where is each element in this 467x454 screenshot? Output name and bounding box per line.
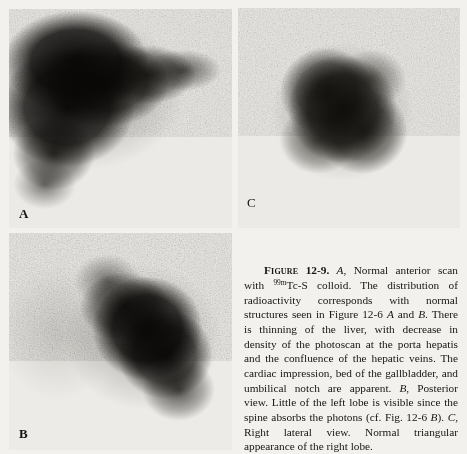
panel-letter-b: B <box>19 427 28 440</box>
caption-figure-label: Figure <box>264 264 298 276</box>
caption-crossref-a: A <box>387 308 394 320</box>
caption-text-3: and <box>394 308 418 320</box>
scintigraph-image-c <box>238 8 460 228</box>
caption-crossref-b: B <box>418 308 425 320</box>
caption-isotope-name: Tc-S <box>287 279 308 291</box>
scan-panel-a: A <box>9 9 232 228</box>
panel-letter-a: A <box>19 207 28 220</box>
scintigraph-image-b <box>9 233 232 450</box>
scintigraph-image-a <box>9 9 232 228</box>
caption-text-6: ). <box>438 411 448 423</box>
caption-isotope-superscript: 99m <box>273 278 286 287</box>
caption-crossref-b2: B <box>431 411 438 423</box>
scan-panel-c: C <box>238 8 460 228</box>
caption-figure-number: 12-9. <box>306 264 330 276</box>
scan-panel-b: B <box>9 233 232 450</box>
panel-letter-c: C <box>247 196 256 209</box>
figure-page: A B C Figure 12-9. A, Normal anterior sc… <box>0 0 467 454</box>
figure-caption: Figure 12-9. A, Normal anterior scan wit… <box>244 263 458 454</box>
